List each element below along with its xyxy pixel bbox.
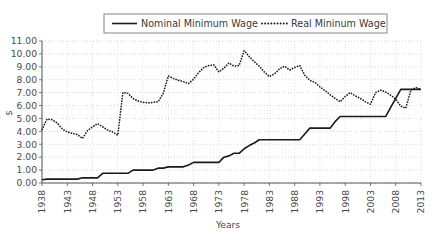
x-tick-label: 1988: [289, 190, 300, 214]
x-tick-label: 1973: [213, 190, 224, 214]
x-tick-label: 2008: [390, 190, 401, 214]
x-tick-label: 1993: [314, 190, 325, 214]
y-tick-label: 3.00: [17, 139, 38, 150]
x-tick-label: 2003: [365, 190, 376, 214]
x-tick-label: 1963: [163, 190, 174, 214]
x-tick-label: 1983: [264, 190, 275, 214]
minimum-wage-chart: 11.0010.009.008.007.006.005.004.003.002.…: [0, 0, 438, 238]
y-tick-label: 4.00: [17, 126, 38, 137]
y-tick-label: 10.00: [11, 48, 37, 59]
chart-canvas: 11.0010.009.008.007.006.005.004.003.002.…: [0, 0, 438, 238]
y-tick-label: 5.00: [17, 113, 38, 124]
x-tick-label: 1978: [239, 190, 250, 214]
y-tick-label: 2.00: [17, 151, 38, 162]
legend-label: Real Mininum Wage: [291, 18, 386, 29]
y-tick-label: 7.00: [17, 87, 38, 98]
x-tick-label: 1953: [112, 190, 123, 214]
x-tick-label: 1943: [62, 190, 73, 214]
x-tick-label: 1998: [340, 190, 351, 214]
y-tick-label: 6.00: [17, 100, 38, 111]
legend-label: Nominal Minimum Wage: [141, 18, 258, 29]
x-tick-label: 1968: [188, 190, 199, 214]
y-tick-label: 9.00: [17, 61, 38, 72]
x-tick-label: 1958: [137, 190, 148, 214]
x-tick-label: 1948: [87, 190, 98, 214]
y-tick-label: 11.00: [11, 35, 37, 46]
chart-legend: Nominal Minimum WageReal Mininum Wage: [104, 14, 387, 33]
x-axis-title: Years: [215, 219, 240, 230]
y-axis-title: $: [3, 110, 14, 116]
x-tick-label: 1938: [36, 190, 47, 214]
y-tick-label: 8.00: [17, 74, 38, 85]
y-tick-label: 0.00: [17, 177, 38, 188]
y-tick-label: 1.00: [17, 164, 38, 175]
x-tick-label: 2013: [415, 190, 426, 214]
